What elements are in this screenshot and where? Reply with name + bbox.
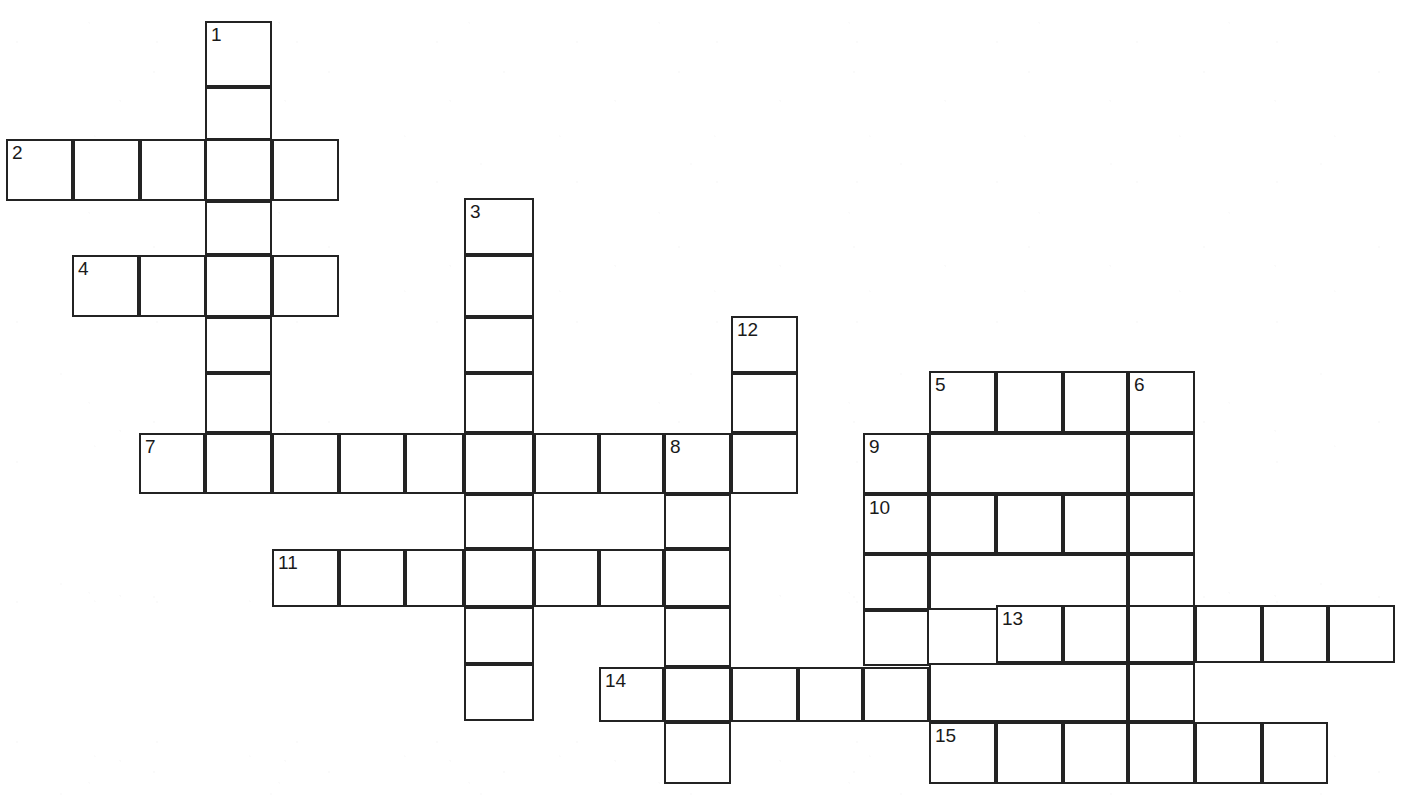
crossword-cell[interactable] (996, 722, 1063, 784)
crossword-cell[interactable] (929, 494, 996, 554)
crossword-cell-numbered-15[interactable]: 15 (929, 722, 996, 784)
crossword-cell[interactable] (599, 549, 664, 607)
crossword-cell[interactable] (464, 373, 534, 433)
crossword-cell[interactable] (272, 255, 339, 317)
crossword-cell[interactable] (339, 433, 405, 494)
crossword-cell[interactable] (664, 494, 731, 549)
crossword-cell[interactable] (1128, 663, 1195, 722)
crossword-cell[interactable] (405, 433, 464, 494)
cell-number-label: 9 (869, 436, 880, 458)
crossword-cell[interactable] (599, 433, 664, 494)
crossword-cell[interactable] (534, 433, 599, 494)
crossword-cell-numbered-9[interactable]: 9 (863, 433, 929, 494)
crossword-cell[interactable] (1262, 605, 1328, 663)
cell-number-label: 14 (605, 670, 626, 692)
cell-number-label: 7 (145, 436, 156, 458)
crossword-cell-numbered-3[interactable]: 3 (464, 198, 534, 255)
crossword-cell[interactable] (205, 433, 272, 494)
crossword-cell[interactable] (464, 433, 534, 494)
crossword-cell-numbered-13[interactable]: 13 (996, 605, 1063, 663)
crossword-cell[interactable] (731, 373, 798, 433)
crossword-cell[interactable] (996, 371, 1063, 433)
crossword-cell[interactable] (464, 494, 534, 549)
crossword-cell[interactable] (664, 722, 731, 784)
crossword-cell-numbered-7[interactable]: 7 (139, 433, 205, 494)
crossword-cell[interactable] (1128, 554, 1195, 610)
crossword-cell[interactable] (205, 201, 272, 255)
crossword-cell[interactable] (205, 255, 272, 317)
crossword-grid: 123412567891011131415 (0, 0, 1416, 801)
crossword-cell[interactable] (1262, 722, 1328, 784)
cell-number-label: 5 (935, 374, 946, 396)
crossword-cell[interactable] (139, 255, 206, 317)
cell-number-label: 11 (278, 552, 298, 574)
crossword-cell[interactable] (339, 549, 405, 607)
crossword-cell-numbered-14[interactable]: 14 (599, 667, 664, 722)
cell-number-label: 15 (935, 725, 956, 747)
crossword-cell[interactable] (1328, 605, 1395, 663)
crossword-cell[interactable] (664, 549, 731, 607)
cell-number-label: 12 (737, 319, 758, 341)
crossword-cell[interactable] (731, 667, 798, 722)
crossword-cell-numbered-2[interactable]: 2 (6, 139, 73, 201)
cell-number-label: 6 (1134, 374, 1145, 396)
crossword-cell-numbered-4[interactable]: 4 (72, 255, 139, 317)
crossword-cell[interactable] (1063, 722, 1128, 784)
crossword-cell[interactable] (272, 433, 339, 494)
crossword-cell[interactable] (464, 607, 534, 664)
crossword-cell[interactable] (863, 667, 929, 722)
crossword-cell[interactable] (1128, 494, 1195, 554)
crossword-cell[interactable] (929, 554, 1128, 610)
crossword-cell-numbered-8[interactable]: 8 (664, 433, 731, 494)
crossword-cell[interactable] (205, 317, 272, 373)
crossword-cell[interactable] (664, 667, 731, 722)
crossword-cell[interactable] (1128, 605, 1195, 663)
crossword-cell[interactable] (272, 139, 339, 201)
crossword-cell[interactable] (534, 549, 599, 607)
cell-number-label: 13 (1002, 608, 1023, 630)
crossword-cell[interactable] (464, 664, 534, 721)
crossword-cell[interactable] (731, 433, 798, 494)
cell-number-label: 1 (211, 24, 222, 46)
crossword-cell-numbered-6[interactable]: 6 (1128, 371, 1195, 433)
crossword-cell[interactable] (664, 607, 731, 667)
crossword-cell[interactable] (205, 87, 272, 140)
crossword-cell[interactable] (798, 667, 863, 722)
crossword-cell-numbered-10[interactable]: 10 (863, 494, 929, 554)
crossword-cell[interactable] (405, 549, 464, 607)
crossword-cell[interactable] (1195, 605, 1262, 663)
crossword-cell[interactable] (863, 554, 929, 610)
cell-number-label: 2 (12, 142, 23, 164)
crossword-cell[interactable] (140, 139, 206, 201)
crossword-cell[interactable] (996, 494, 1063, 554)
crossword-cell-numbered-5[interactable]: 5 (929, 371, 996, 433)
cell-number-label: 4 (78, 258, 89, 280)
crossword-cell-numbered-1[interactable]: 1 (205, 21, 272, 87)
crossword-cell[interactable] (205, 139, 272, 201)
crossword-cell[interactable] (464, 317, 534, 373)
crossword-cell[interactable] (1063, 494, 1128, 554)
cell-number-label: 10 (869, 497, 890, 519)
crossword-cell-numbered-12[interactable]: 12 (731, 316, 798, 373)
crossword-cell[interactable] (929, 433, 1128, 494)
crossword-cell[interactable] (929, 663, 1128, 722)
crossword-cell[interactable] (863, 610, 929, 666)
crossword-cell[interactable] (1063, 371, 1128, 433)
cell-number-label: 3 (470, 201, 481, 223)
crossword-cell[interactable] (464, 255, 534, 317)
crossword-cell[interactable] (1128, 722, 1195, 784)
crossword-cell[interactable] (1195, 722, 1262, 784)
crossword-cell-numbered-11[interactable]: 11 (272, 549, 339, 607)
crossword-cell[interactable] (464, 549, 534, 607)
cell-number-label: 8 (670, 436, 681, 458)
crossword-cell[interactable] (1063, 605, 1128, 663)
crossword-cell[interactable] (1128, 433, 1195, 494)
crossword-cell[interactable] (205, 373, 272, 433)
crossword-cell[interactable] (73, 139, 140, 201)
